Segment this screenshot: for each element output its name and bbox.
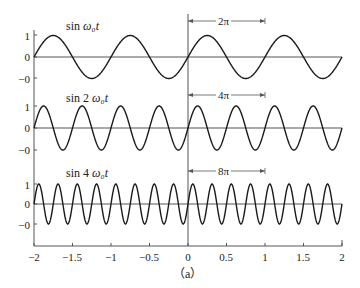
panel-title-2: sin 2 ω₀t bbox=[66, 92, 108, 104]
xtick-2: 2 bbox=[327, 251, 357, 263]
xtick-1.5: 1.5 bbox=[288, 251, 318, 263]
ytick-p2-1: 1 bbox=[4, 101, 30, 113]
xtick-m1.5: −1.5 bbox=[57, 251, 87, 263]
panel-title-1: sin ω₀t bbox=[66, 20, 99, 32]
arrowhead-left-icon bbox=[188, 169, 193, 173]
annotation-2pi: 2π bbox=[216, 15, 231, 27]
arrowhead-right-icon bbox=[260, 169, 265, 173]
ytick-p3-0: 0 bbox=[4, 198, 30, 210]
xtick-1: 1 bbox=[250, 251, 280, 263]
arrowhead-right-icon bbox=[260, 19, 265, 23]
panel-title-3: sin 4 ω₀t bbox=[66, 167, 108, 179]
xtick-m0.5: −0.5 bbox=[134, 251, 164, 263]
ytick-p3-m1: −0 bbox=[4, 219, 30, 231]
sine-waves-figure bbox=[0, 0, 360, 288]
annotation-8pi: 8π bbox=[216, 165, 231, 177]
ytick-p3-1: 1 bbox=[4, 179, 30, 191]
figure-caption: （a） bbox=[173, 268, 202, 280]
xtick-m1: −1 bbox=[96, 251, 126, 263]
annotation-4pi: 4π bbox=[216, 89, 231, 101]
ytick-p2-0: 0 bbox=[4, 122, 30, 134]
ytick-p1-0: 0 bbox=[4, 51, 30, 63]
arrowhead-right-icon bbox=[260, 93, 265, 97]
xtick-0: 0 bbox=[173, 251, 203, 263]
arrowhead-left-icon bbox=[188, 93, 193, 97]
ytick-p2-m1: −0 bbox=[4, 144, 30, 156]
ytick-p1-1: 1 bbox=[4, 30, 30, 42]
xtick-m2: −2 bbox=[19, 251, 49, 263]
ytick-p1-m1: −0 bbox=[4, 73, 30, 85]
arrowhead-left-icon bbox=[188, 19, 193, 23]
xtick-0.5: 0.5 bbox=[211, 251, 241, 263]
